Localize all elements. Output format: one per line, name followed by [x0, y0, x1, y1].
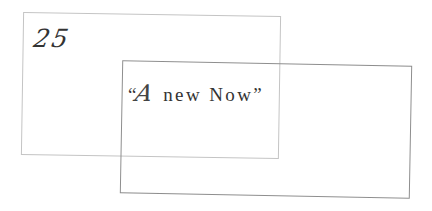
card-number: 25 — [31, 24, 72, 53]
quote-body: new Now — [156, 84, 253, 105]
quote-initial: A — [134, 80, 156, 106]
quote-close-mark: ” — [253, 84, 261, 105]
quote-text: “A new Now” — [128, 80, 262, 106]
